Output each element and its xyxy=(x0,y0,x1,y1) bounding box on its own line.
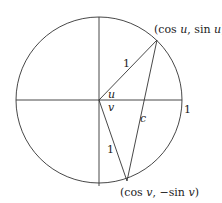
label-point-u: (cos u, sin u) xyxy=(154,23,222,36)
label-x-intercept: 1 xyxy=(184,103,191,116)
label-radius-upper: 1 xyxy=(123,57,130,70)
label-angle-u: u xyxy=(108,88,115,101)
label-chord-c: c xyxy=(140,112,146,125)
label-radius-lower: 1 xyxy=(107,143,114,156)
label-point-v: (cos v, −sin v) xyxy=(120,186,199,199)
chord-c xyxy=(127,40,157,181)
unit-circle-diagram: (cos u, sin u) (cos v, −sin v) 1 1 1 u v… xyxy=(0,0,222,203)
label-angle-v: v xyxy=(108,101,115,114)
